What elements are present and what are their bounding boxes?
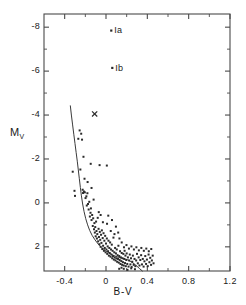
data-point [110,230,112,232]
data-point [127,256,129,258]
data-point [138,256,140,258]
data-point [125,244,127,246]
data-point [72,171,74,173]
data-point [126,269,128,271]
data-point [82,189,84,191]
data-point [105,248,107,250]
data-point [93,199,95,201]
data-point [135,246,137,248]
data-point [130,257,132,259]
data-point [106,165,108,167]
data-point [153,262,155,264]
data-point [117,245,119,247]
data-point [101,248,103,250]
data-point [141,263,143,265]
data-point [104,235,106,237]
data-point [149,257,151,259]
data-point [84,178,86,180]
data-point [107,240,109,242]
data-point [87,203,89,205]
data-point [136,253,138,255]
data-point [98,211,100,213]
data-point [77,138,79,140]
data-point [103,232,105,234]
data-point [79,169,81,171]
data-point [97,240,99,242]
y-tick-label: -8 [18,21,40,31]
data-point [96,237,98,239]
data-point [91,214,93,216]
y-axis-title-subscript: V [19,133,24,140]
data-point [124,250,126,252]
data-point [92,225,94,227]
axis-ticks [44,14,230,271]
data-point [121,267,123,269]
data-point [148,254,150,256]
data-point [91,187,93,189]
x-tick-label: -0.4 [49,276,81,286]
y-tick-label: -4 [18,109,40,119]
data-point [147,265,149,267]
data-point [107,215,109,217]
data-point [135,259,137,261]
data-point [100,242,102,244]
y-tick-label: -6 [18,65,40,75]
data-point [84,191,86,193]
data-point [111,219,113,221]
data-point [119,250,121,252]
data-point [99,164,101,166]
data-point [88,201,90,203]
data-point [130,245,132,247]
data-point [98,228,100,230]
data-point [118,237,120,239]
data-point [99,239,101,241]
hr-diagram-figure: -8-6-4-202 -0.400.40.81.2 IaIb MV B-V [0,0,246,305]
data-point [142,258,144,260]
data-point [106,237,108,239]
annotation-point [110,29,112,31]
axes-frame [44,14,230,271]
data-point [85,197,87,199]
data-point [81,139,83,141]
data-point [144,255,146,257]
x-tick-label: 0.4 [131,276,163,286]
data-point [95,230,97,232]
data-point [102,245,104,247]
y-axis-title: MV [10,126,24,140]
plot-frame [44,14,230,271]
data-point [146,259,148,261]
data-point [132,255,134,257]
data-point [98,236,100,238]
data-point [88,209,90,211]
y-tick-label: -2 [18,153,40,163]
data-point [118,268,120,270]
data-point [124,262,126,264]
data-point [150,248,152,250]
data-point [109,241,111,243]
data-point [105,243,107,245]
data-point [143,266,145,268]
data-point [74,195,76,197]
data-point [100,246,102,248]
data-point [124,255,126,257]
data-point [134,265,136,267]
data-point [128,266,130,268]
data-point [100,214,102,216]
data-point [150,264,152,266]
data-point [122,253,124,255]
data-point [116,248,118,250]
data-point [90,212,92,214]
data-point [113,233,115,235]
data-point [85,195,87,197]
data-point [125,259,127,261]
data-point [131,261,133,263]
annotation-label-ib: Ib [115,63,123,73]
data-point [145,263,147,265]
data-point [123,246,125,248]
data-point [79,129,81,131]
data-point [91,219,93,221]
data-point [80,133,82,135]
x-axis-title: B-V [0,286,246,297]
data-point [123,265,125,267]
x-tick-label: 1.2 [214,276,246,286]
